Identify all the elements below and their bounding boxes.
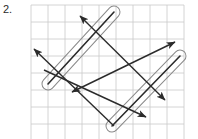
- arrow-line-4: [44, 70, 146, 117]
- arrow-line-1: [34, 49, 114, 126]
- arrow-lines: [34, 16, 175, 126]
- geometry-figure: [0, 0, 198, 139]
- segment-lower-right: [112, 56, 180, 126]
- arrow-line-2: [80, 16, 165, 100]
- highlighted-segments: [48, 12, 180, 126]
